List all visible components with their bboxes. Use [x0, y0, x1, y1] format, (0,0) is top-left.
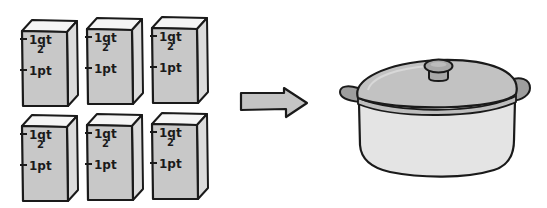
- cartons-to-pot-diagram: 1qt 2 1pt 1qt 2 1pt 1qt 2 1pt 1qt 2 1pt …: [0, 0, 547, 208]
- carton-mark-lower: 1pt: [94, 158, 117, 172]
- arrow-right-icon: [241, 88, 307, 117]
- carton-mark-upper-sub: 2: [37, 44, 44, 55]
- carton-4: 1qt 2 1pt: [20, 115, 78, 201]
- carton-5: 1qt 2 1pt: [85, 114, 143, 200]
- carton-mark-upper-sub: 2: [102, 138, 109, 149]
- carton-mark-upper-sub: 2: [167, 41, 174, 52]
- carton-3: 1qt 2 1pt: [150, 17, 208, 103]
- carton-mark-lower: 1pt: [94, 62, 117, 76]
- carton-mark-lower: 1pt: [29, 159, 52, 173]
- carton-6: 1qt 2 1pt: [150, 113, 208, 199]
- cooking-pot-icon: [340, 60, 530, 177]
- carton-mark-lower: 1pt: [159, 157, 182, 171]
- carton-mark-upper-sub: 2: [102, 42, 109, 53]
- carton-mark-lower: 1pt: [159, 61, 182, 75]
- carton-1: 1qt 2 1pt: [20, 20, 78, 106]
- carton-2: 1qt 2 1pt: [85, 18, 143, 104]
- carton-mark-lower: 1pt: [29, 64, 52, 78]
- carton-mark-upper-sub: 2: [167, 137, 174, 148]
- carton-mark-upper-sub: 2: [37, 139, 44, 150]
